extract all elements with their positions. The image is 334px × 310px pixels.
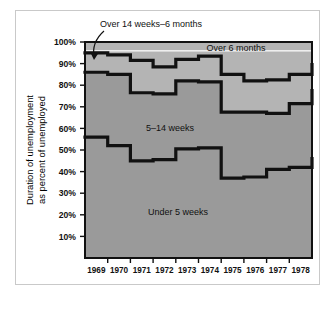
y-axis-tick-label: 10% <box>59 232 77 242</box>
y-axis-title-line2: as percent of unemployed <box>36 96 47 204</box>
top-highlight-line <box>85 50 312 52</box>
callout-label-over-14-weeks: Over 14 weeks–6 months <box>100 19 203 29</box>
x-axis-year-label: 1970 <box>110 266 129 275</box>
y-axis-tick-label: 40% <box>59 167 77 177</box>
band-label-5-14-weeks: 5–14 weeks <box>146 123 195 133</box>
y-axis-title: Duration of unemployment as percent of u… <box>24 95 47 205</box>
x-axis-year-label: 1975 <box>223 266 242 275</box>
x-axis-year-label: 1969 <box>87 266 106 275</box>
y-axis-tick-label: 30% <box>59 188 77 198</box>
y-axis-tick-label: 70% <box>59 102 77 112</box>
y-axis-tick-label: 50% <box>59 145 77 155</box>
y-axis-tick-label: 60% <box>59 124 77 134</box>
band-label-under-5-weeks: Under 5 weeks <box>148 207 209 217</box>
figure-root: 100%90%80%70%60%50%40%30%20%10% 19691970… <box>0 0 334 310</box>
y-axis-tick-label: 80% <box>59 80 77 90</box>
y-axis-tick-label: 90% <box>59 59 77 69</box>
x-axis-year-label: 1973 <box>178 266 197 275</box>
y-axis-tick-label: 20% <box>59 210 77 220</box>
band-label-over-6-months: Over 6 months <box>206 43 266 53</box>
x-axis-year-label: 1974 <box>201 266 220 275</box>
y-axis-title-line1: Duration of unemployment <box>24 95 35 205</box>
x-axis-year-label: 1978 <box>292 266 311 275</box>
chart-canvas: 100%90%80%70%60%50%40%30%20%10% 19691970… <box>0 0 334 310</box>
y-axis-tick-label: 100% <box>54 37 76 47</box>
x-axis-year-label: 1972 <box>155 266 174 275</box>
x-axis-year-label: 1976 <box>246 266 265 275</box>
y-axis: 100%90%80%70%60%50%40%30%20%10% <box>54 37 85 241</box>
plot-area <box>85 42 312 258</box>
x-axis: 1969197019711972197319741975197619771978 <box>87 258 310 275</box>
x-axis-year-label: 1971 <box>133 266 152 275</box>
x-axis-year-label: 1977 <box>269 266 288 275</box>
